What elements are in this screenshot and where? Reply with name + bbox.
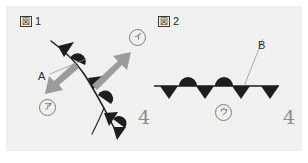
dip-symbol-panel-2: 4	[283, 108, 295, 127]
fault-tooth-4	[261, 86, 279, 99]
figure-caption-boxed-char: 図	[20, 16, 32, 27]
dip-symbol-panel-1: 4	[138, 108, 150, 127]
label-a: A	[38, 71, 45, 82]
figure-panel-1: 図 1	[0, 0, 148, 145]
arrow-down-left	[45, 63, 79, 94]
figure-caption-number: 2	[173, 16, 179, 27]
fault-tooth-1	[160, 86, 178, 99]
figure-panel-2: 図 2 B ウ 4	[148, 0, 296, 145]
fault-tooth-1	[58, 42, 74, 57]
fault-bump-3	[113, 116, 127, 128]
figure-page: 図 1	[0, 0, 308, 163]
label-b: B	[258, 40, 265, 51]
circled-i-marker: イ	[129, 29, 146, 46]
figure-caption-number: 1	[35, 16, 41, 27]
fault-tooth-3	[232, 86, 250, 99]
figure-2-caption: 図 2	[158, 16, 179, 27]
figure-caption-boxed-char: 図	[158, 16, 170, 27]
fault-bump-1	[179, 77, 197, 86]
figure-1-caption: 図 1	[20, 16, 41, 27]
fault-tooth-4	[113, 127, 126, 140]
circled-a-marker: ア	[39, 99, 56, 116]
arrow-up-right	[92, 52, 131, 90]
fault-bump-2	[215, 77, 233, 86]
circled-u-marker: ウ	[215, 104, 232, 121]
fault-splay-branch	[92, 108, 104, 134]
fault-tooth-2	[196, 86, 214, 99]
